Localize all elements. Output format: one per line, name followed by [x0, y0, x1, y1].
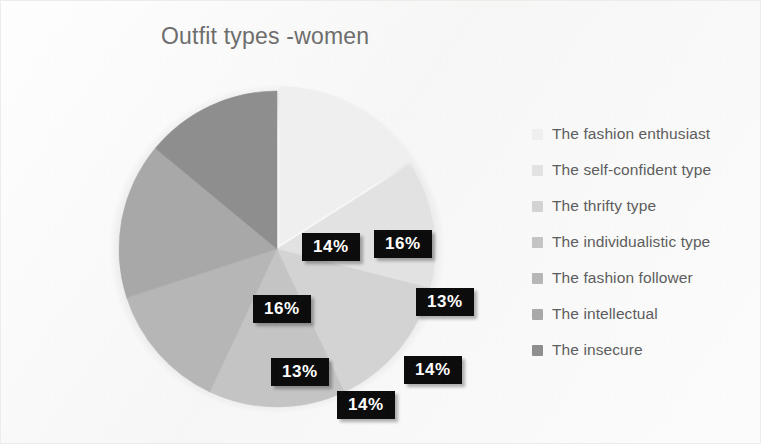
legend-item[interactable]: The self-confident type: [532, 152, 757, 188]
legend-color-swatch-icon: [532, 201, 543, 212]
legend-color-swatch-icon: [532, 309, 543, 320]
legend-item[interactable]: The thrifty type: [532, 188, 757, 224]
chart-page: Outfit types -women 16%13%14%14%13%16%14…: [0, 0, 761, 444]
pie-data-label: 16%: [253, 295, 311, 323]
chart-title: Outfit types -women: [161, 23, 369, 50]
pie-data-label: 14%: [337, 391, 395, 419]
legend-color-swatch-icon: [532, 129, 543, 140]
pie-data-label: 16%: [374, 230, 432, 258]
legend-item-label: The intellectual: [552, 305, 658, 323]
pie-chart: 16%13%14%14%13%16%14%: [101, 73, 451, 413]
legend-item[interactable]: The fashion follower: [532, 260, 757, 296]
legend-item-label: The fashion enthusiast: [552, 125, 710, 143]
legend-color-swatch-icon: [532, 237, 543, 248]
legend-item-label: The insecure: [552, 341, 643, 359]
legend-color-swatch-icon: [532, 345, 543, 356]
legend-item[interactable]: The individualistic type: [532, 224, 757, 260]
legend-item[interactable]: The insecure: [532, 332, 757, 368]
legend-item[interactable]: The intellectual: [532, 296, 757, 332]
legend-item-label: The fashion follower: [552, 269, 693, 287]
legend-item-label: The individualistic type: [552, 233, 710, 251]
pie-data-label: 14%: [404, 356, 462, 384]
legend-item[interactable]: The fashion enthusiast: [532, 116, 757, 152]
legend: The fashion enthusiastThe self-confident…: [532, 116, 757, 368]
pie-data-label: 14%: [302, 233, 360, 261]
pie-data-label: 13%: [271, 358, 329, 386]
legend-item-label: The self-confident type: [552, 161, 711, 179]
legend-color-swatch-icon: [532, 273, 543, 284]
legend-color-swatch-icon: [532, 165, 543, 176]
pie-data-label: 13%: [416, 288, 474, 316]
legend-item-label: The thrifty type: [552, 197, 656, 215]
